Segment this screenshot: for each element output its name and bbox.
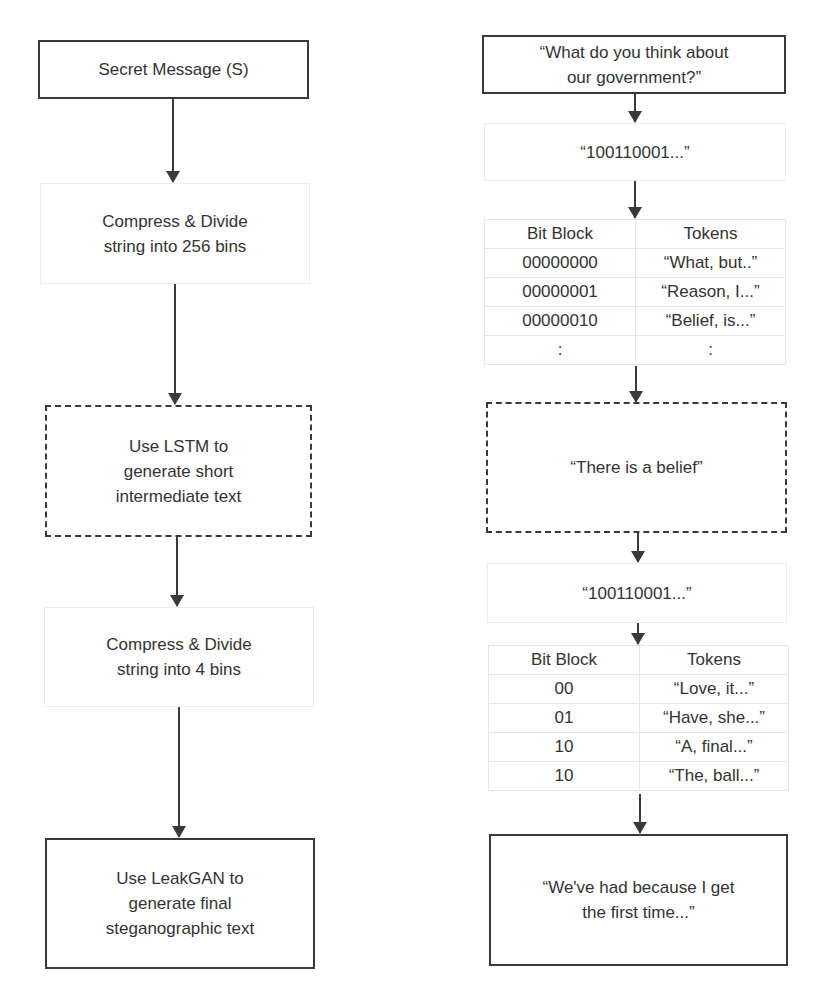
question-box: “What do you think about our government?…: [482, 35, 786, 94]
arrow-down-icon: [176, 537, 178, 606]
leakgan-line-2: generate final: [106, 891, 254, 916]
intermediate-text-box: “There is a belief”: [486, 402, 787, 533]
compress-256-line-2: string into 256 bins: [102, 234, 248, 259]
bits-box-1: “100110001...”: [484, 123, 786, 181]
ellipsis-cell: :: [485, 336, 636, 365]
header-bit-block: Bit Block: [489, 646, 640, 675]
arrow-down-icon: [635, 366, 637, 402]
question-line-2: our government?”: [539, 65, 728, 90]
lstm-box: Use LSTM to generate short intermediate …: [45, 405, 312, 537]
bit-block-cell: 00000010: [485, 307, 636, 336]
table-row: 00000010 “Belief, is...”: [485, 307, 786, 336]
tokens-cell: “What, but..”: [636, 249, 786, 278]
leakgan-line-1: Use LeakGAN to: [106, 866, 254, 891]
arrow-down-icon: [634, 94, 636, 122]
bits-box-2: “100110001...”: [487, 563, 787, 623]
bit-block-cell: 10: [489, 762, 640, 791]
table-row: 10 “A, final...”: [489, 733, 789, 762]
bit-block-table-256: Bit Block Tokens 00000000 “What, but..” …: [484, 219, 786, 365]
final-text-box: “We've had because I get the first time.…: [489, 834, 788, 966]
bit-block-cell: 00000000: [485, 249, 636, 278]
table-header-row: Bit Block Tokens: [485, 220, 786, 249]
arrow-down-icon: [634, 181, 636, 218]
header-tokens: Tokens: [636, 220, 786, 249]
compress-256-line-1: Compress & Divide: [102, 209, 248, 234]
header-bit-block: Bit Block: [485, 220, 636, 249]
bit-block-cell: 00: [489, 675, 640, 704]
tokens-cell: “The, ball...”: [640, 762, 789, 791]
arrow-down-icon: [639, 794, 641, 833]
bit-block-cell: 01: [489, 704, 640, 733]
tokens-cell: “Belief, is...”: [636, 307, 786, 336]
bits-2-label: “100110001...”: [582, 581, 691, 606]
lstm-line-3: intermediate text: [116, 484, 242, 509]
ellipsis-cell: :: [636, 336, 786, 365]
secret-message-box: Secret Message (S): [38, 40, 309, 99]
table-row: 00 “Love, it...”: [489, 675, 789, 704]
tokens-cell: “A, final...”: [640, 733, 789, 762]
header-tokens: Tokens: [640, 646, 789, 675]
question-line-1: “What do you think about: [539, 40, 728, 65]
table-row: 00000000 “What, but..”: [485, 249, 786, 278]
tokens-cell: “Reason, I...”: [636, 278, 786, 307]
arrow-down-icon: [637, 533, 639, 562]
secret-message-label: Secret Message (S): [98, 57, 248, 82]
arrow-down-icon: [637, 623, 639, 644]
bits-1-label: “100110001...”: [580, 140, 689, 165]
compress-4-box: Compress & Divide string into 4 bins: [44, 607, 314, 707]
table-row: 00000001 “Reason, I...”: [485, 278, 786, 307]
arrow-down-icon: [172, 99, 174, 182]
compress-4-line-2: string into 4 bins: [106, 657, 252, 682]
compress-256-box: Compress & Divide string into 256 bins: [40, 183, 310, 284]
bit-block-cell: 00000001: [485, 278, 636, 307]
leakgan-line-3: steganographic text: [106, 916, 254, 941]
table-row: : :: [485, 336, 786, 365]
compress-4-line-1: Compress & Divide: [106, 632, 252, 657]
leakgan-box: Use LeakGAN to generate final steganogra…: [45, 838, 315, 969]
lstm-line-2: generate short: [116, 459, 242, 484]
bit-block-cell: 10: [489, 733, 640, 762]
arrow-down-icon: [178, 707, 180, 837]
arrow-down-icon: [174, 284, 176, 404]
intermediate-text-label: “There is a belief”: [570, 455, 702, 480]
final-text-line-2: the first time...”: [543, 900, 735, 925]
table-row: 01 “Have, she...”: [489, 704, 789, 733]
table-row: 10 “The, ball...”: [489, 762, 789, 791]
tokens-cell: “Love, it...”: [640, 675, 789, 704]
tokens-cell: “Have, she...”: [640, 704, 789, 733]
bit-block-table-4: Bit Block Tokens 00 “Love, it...” 01 “Ha…: [488, 645, 789, 791]
lstm-line-1: Use LSTM to: [116, 434, 242, 459]
table-header-row: Bit Block Tokens: [489, 646, 789, 675]
final-text-line-1: “We've had because I get: [543, 875, 735, 900]
